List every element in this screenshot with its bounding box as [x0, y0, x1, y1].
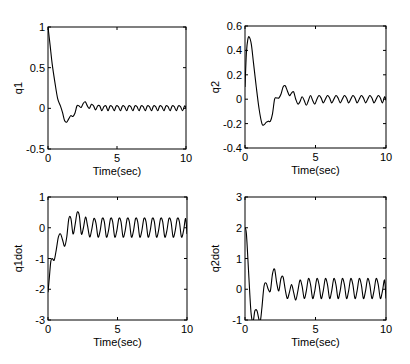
axes-frame: [48, 197, 187, 320]
axes-frame: [245, 197, 386, 320]
y-tick-label: -0.4: [223, 142, 242, 154]
y-tick-label: -1: [35, 253, 45, 265]
x-tick-label: 0: [242, 151, 248, 163]
figure: 0510-0.500.51 Time(sec) q1 0510-0.4-0.20…: [0, 0, 410, 364]
x-tick-label: 10: [180, 152, 192, 164]
y-tick-label: 1: [236, 253, 242, 265]
y-tick-label: 1: [39, 191, 45, 203]
subplot-q2: 0510-0.4-0.200.20.40.6 Time(sec) q2: [209, 20, 392, 176]
y-tick-label: 0: [236, 93, 242, 105]
y-axis-label: q2dot: [209, 245, 221, 273]
x-tick-label: 10: [380, 151, 392, 163]
y-tick-label: 2: [236, 222, 242, 234]
x-axis-label: Time(sec): [93, 336, 141, 348]
x-tick-label: 10: [380, 323, 392, 335]
y-axis-label: q1: [12, 82, 24, 94]
x-axis-label: Time(sec): [93, 165, 141, 177]
y-tick-label: 0.6: [227, 20, 242, 32]
subplot-q2dot: 0510-10123 Time(sec) q2dot: [209, 191, 392, 348]
y-axis-label: q1dot: [12, 245, 24, 273]
subplot-q1: 0510-0.500.51 Time(sec) q1: [12, 21, 192, 177]
y-tick-label: -2: [35, 283, 45, 295]
x-tick-label: 5: [312, 151, 318, 163]
x-tick-label: 5: [312, 323, 318, 335]
y-tick-label: 0.5: [30, 62, 45, 74]
series-line-q1: [48, 27, 186, 122]
y-tick-label: 1: [39, 21, 45, 33]
y-tick-label: -0.2: [223, 118, 242, 130]
x-tick-label: 10: [181, 323, 193, 335]
x-axis-label: Time(sec): [291, 336, 339, 348]
subplot-q1dot: 0510-3-2-101 Time(sec) q1dot: [12, 191, 193, 348]
axes-frame: [48, 27, 186, 149]
y-tick-label: 0: [236, 283, 242, 295]
y-axis-label: q2: [209, 81, 221, 93]
y-tick-label: 0: [39, 222, 45, 234]
series-line-q2: [245, 37, 386, 126]
x-tick-label: 0: [242, 323, 248, 335]
x-tick-label: 0: [45, 152, 51, 164]
x-tick-label: 5: [114, 323, 120, 335]
y-tick-label: 3: [236, 191, 242, 203]
y-tick-label: -1: [232, 314, 242, 326]
series-line-q2dot: [245, 228, 386, 322]
y-tick-label: 0.2: [227, 69, 242, 81]
y-tick-label: 0: [39, 102, 45, 114]
x-tick-label: 5: [114, 152, 120, 164]
axes-frame: [245, 26, 386, 148]
x-tick-label: 0: [45, 323, 51, 335]
y-tick-label: -0.5: [26, 143, 45, 155]
y-tick-label: -3: [35, 314, 45, 326]
y-tick-label: 0.4: [227, 44, 242, 56]
series-line-q1dot: [48, 212, 187, 293]
x-axis-label: Time(sec): [291, 164, 339, 176]
